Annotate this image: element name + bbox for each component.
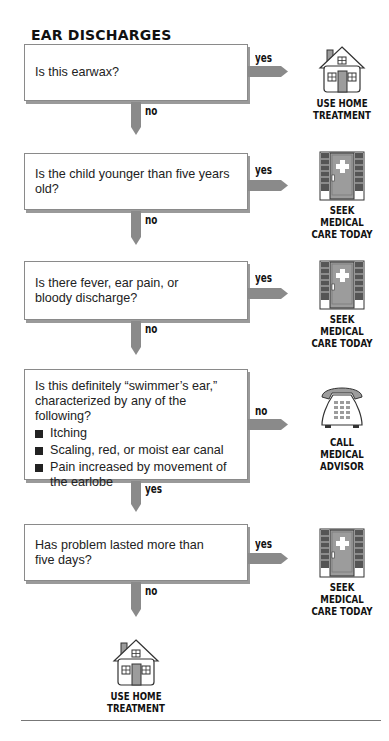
symptom-item: Scaling, red, or moist ear canal (35, 443, 237, 458)
outcome-line: SEEK (309, 581, 375, 593)
yes-arrow-right (248, 553, 288, 564)
no-arrow-right (248, 419, 288, 430)
yes-label: yes (255, 271, 272, 285)
house-icon (318, 44, 366, 94)
no-label: no (255, 404, 267, 418)
outcome-line: SEEK (309, 313, 375, 325)
outcome-line: CARE TODAY (309, 228, 375, 240)
house-icon (112, 637, 160, 687)
outcome-line: MEDICAL (309, 593, 375, 605)
no-label: no (145, 104, 157, 118)
page-title: EAR DISCHARGES (31, 27, 172, 43)
no-arrow-down (131, 321, 141, 355)
outcome-seek-medical-care: SEEK MEDICAL CARE TODAY (302, 260, 382, 349)
clinic-door-icon (318, 260, 366, 310)
clinic-door-icon (318, 151, 366, 201)
outcome-line: SEEK (309, 204, 375, 216)
outcome-line: CALL (309, 436, 375, 448)
outcome-line: CARE TODAY (309, 337, 375, 349)
outcome-line: CARE TODAY (309, 605, 375, 617)
question-box-age: Is the child younger than five years old… (24, 153, 248, 210)
outcome-line: TREATMENT (103, 702, 169, 714)
yes-arrow-down (131, 481, 141, 512)
question-text: Is there fever, ear pain, or bloody disc… (35, 276, 237, 306)
yes-arrow-right (248, 288, 288, 299)
outcome-line: USE HOME (309, 97, 375, 109)
no-arrow-down (131, 582, 141, 617)
question-text: Has problem lasted more than five days? (35, 538, 237, 568)
question-text: Is the child younger than five years old… (35, 167, 237, 197)
no-label: no (145, 322, 157, 336)
question-box-fever: Is there fever, ear pain, or bloody disc… (24, 261, 248, 320)
question-box-swimmers-ear: Is this definitely “swimmer’s ear,” char… (24, 369, 248, 480)
question-box-earwax: Is this earwax? (24, 44, 248, 101)
question-box-duration: Has problem lasted more than five days? (24, 524, 248, 581)
outcome-call-medical-advisor: CALL MEDICAL ADVISOR (302, 383, 382, 472)
outcome-seek-medical-care: SEEK MEDICAL CARE TODAY (302, 151, 382, 240)
yes-label: yes (255, 163, 272, 177)
bottom-divider (21, 720, 381, 721)
no-arrow-down (131, 102, 141, 135)
telephone-icon (318, 383, 366, 433)
question-text: Is this earwax? (35, 65, 237, 80)
question-text: Is this definitely “swimmer’s ear,” char… (35, 379, 237, 424)
yes-label: yes (255, 51, 272, 65)
final-outcome-use-home-treatment: USE HOME TREATMENT (96, 637, 176, 714)
no-label: no (145, 213, 157, 227)
outcome-line: USE HOME (103, 690, 169, 702)
outcome-line: MEDICAL (309, 448, 375, 460)
yes-arrow-right (248, 66, 288, 77)
outcome-line: TREATMENT (309, 109, 375, 121)
clinic-door-icon (318, 528, 366, 578)
no-arrow-down (131, 211, 141, 245)
yes-label: yes (255, 537, 272, 551)
outcome-seek-medical-care: SEEK MEDICAL CARE TODAY (302, 528, 382, 617)
yes-label: yes (145, 482, 162, 496)
no-label: no (145, 584, 157, 598)
outcome-line: MEDICAL (309, 216, 375, 228)
outcome-line: ADVISOR (309, 460, 375, 472)
symptom-item: Itching (35, 426, 237, 441)
outcome-use-home-treatment: USE HOME TREATMENT (302, 44, 382, 121)
yes-arrow-right (248, 180, 288, 191)
outcome-line: MEDICAL (309, 325, 375, 337)
